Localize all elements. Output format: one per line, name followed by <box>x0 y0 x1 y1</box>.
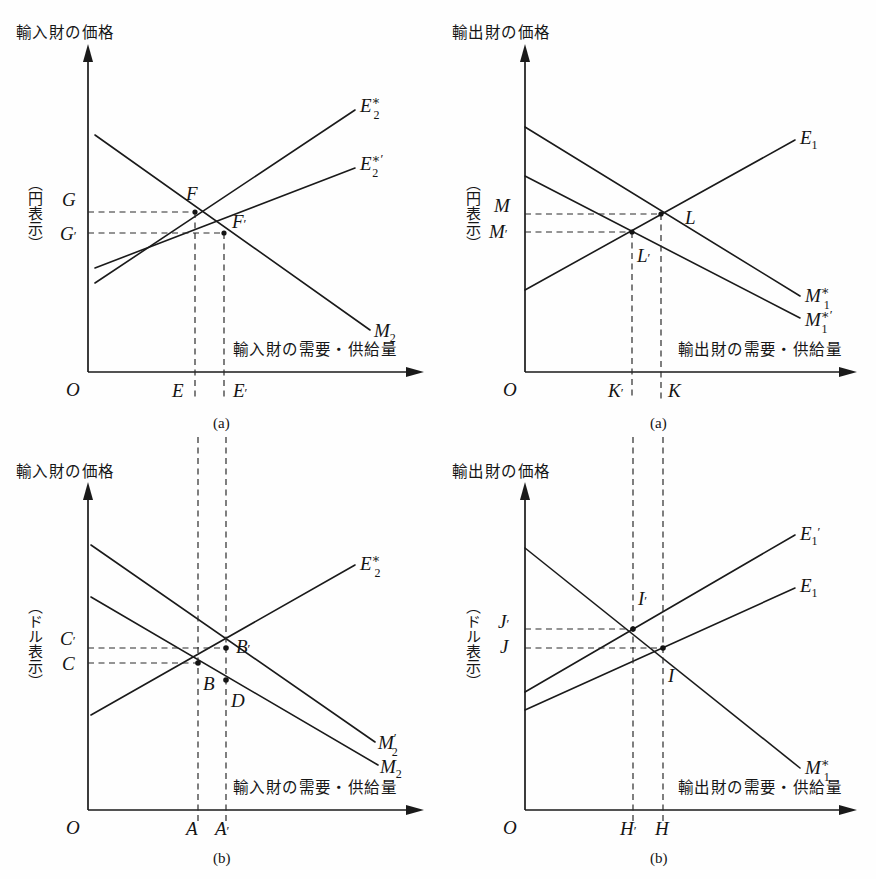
point-label-L-prime: L′ <box>636 245 651 266</box>
panel-import-yen: 輸入財の価格 輸入財の需要・供給量 O G G′ E E′ F <box>0 0 438 440</box>
curve-E1-prime <box>525 535 795 692</box>
y-axis-title: 輸入財の価格 <box>16 463 114 481</box>
y-tick-J: J <box>500 636 510 657</box>
point-B <box>195 660 201 666</box>
panel-caption: (b) <box>650 850 668 867</box>
curve-label-E2-star: E∗2 <box>359 551 380 580</box>
y-axis-unit: （ドル表示） <box>464 599 479 689</box>
origin-label: O <box>66 379 80 400</box>
curve-label-M2: M2 <box>379 756 402 781</box>
curve-E1 <box>525 588 795 710</box>
y-tick-C-prime: C′ <box>60 628 76 649</box>
panel-caption: (a) <box>213 415 230 432</box>
x-tick-A: A <box>184 818 198 839</box>
curve-M2-prime <box>91 545 375 742</box>
y-axis-unit: （円表示） <box>464 176 479 251</box>
x-tick-E-prime: E′ <box>232 380 248 401</box>
x-tick-E: E <box>171 380 184 401</box>
x-axis-title: 輸入財の需要・供給量 <box>233 341 397 359</box>
panel-export-dollar: 輸出財の価格 輸出財の需要・供給量 O J′ J H′ H I′ I E <box>438 437 876 877</box>
panel-export-yen: 輸出財の価格 輸出財の需要・供給量 O M M′ K′ K L L′ E <box>438 0 876 440</box>
point-F <box>192 209 197 214</box>
curve-label-E1: E1 <box>799 575 818 600</box>
y-axis-title: 輸出財の価格 <box>452 463 550 481</box>
point-label-L: L <box>684 207 696 228</box>
y-axis-title: 輸入財の価格 <box>16 24 114 42</box>
curve-label-M2-prime: M′2 <box>377 730 398 759</box>
origin-label: O <box>66 817 80 838</box>
curve-label-E2-star-prime: E∗′2 <box>359 151 383 180</box>
y-tick-G: G <box>62 189 76 210</box>
y-axis-unit: （円表示） <box>26 176 41 251</box>
point-L-prime <box>629 229 634 234</box>
x-tick-H: H <box>654 818 670 839</box>
y-tick-M: M <box>493 195 511 216</box>
point-I <box>660 645 666 651</box>
point-label-B: B <box>203 673 215 694</box>
guide-lines <box>525 437 663 822</box>
curve-M2 <box>95 135 370 330</box>
point-label-D: D <box>230 690 245 711</box>
x-axis-title: 輸出財の需要・供給量 <box>678 341 842 359</box>
point-D <box>223 677 229 683</box>
point-label-F: F <box>185 183 198 204</box>
y-tick-M-prime: M′ <box>488 221 508 242</box>
curve-E2-star <box>91 565 355 715</box>
curve-E2-star <box>95 110 355 283</box>
origin-label: O <box>503 817 517 838</box>
panel-caption: (b) <box>213 850 231 867</box>
point-F-prime <box>221 230 226 235</box>
panel-import-dollar: 輸入財の価格 輸入財の需要・供給量 O C′ C A A′ B B′ D <box>0 437 438 877</box>
panel-caption: (a) <box>650 415 667 432</box>
point-B-prime <box>223 645 229 651</box>
curve-M1-star <box>525 127 800 296</box>
point-label-I-prime: I′ <box>637 588 647 609</box>
origin-label: O <box>503 379 517 400</box>
curve-M1-star-prime <box>525 176 800 318</box>
x-axis-title: 輸出財の需要・供給量 <box>678 779 842 797</box>
curve-label-E1-prime: E1′ <box>799 523 821 548</box>
guide-lines <box>88 437 226 822</box>
curve-E2-star-prime <box>95 168 355 268</box>
x-tick-A-prime: A′ <box>213 818 230 839</box>
y-axis-unit: （ドル表示） <box>26 599 41 689</box>
x-tick-K-prime: K′ <box>607 380 624 401</box>
point-label-B-prime: B′ <box>236 636 251 657</box>
curve-M2 <box>91 597 378 765</box>
y-tick-J-prime: J′ <box>498 611 509 632</box>
x-tick-H-prime: H′ <box>619 818 637 839</box>
point-label-F-prime: F′ <box>231 211 247 232</box>
point-I-prime <box>630 626 636 632</box>
figure-sheet: 輸入財の価格 輸入財の需要・供給量 O G G′ E E′ F <box>0 0 876 879</box>
y-tick-C: C <box>62 653 75 674</box>
point-L <box>658 211 663 216</box>
curve-label-M1-star-prime: M∗′1 <box>804 307 833 336</box>
x-axis-title: 輸入財の需要・供給量 <box>233 779 397 797</box>
y-tick-G-prime: G′ <box>60 223 77 244</box>
curve-label-E1: E1 <box>799 127 818 152</box>
y-axis-title: 輸出財の価格 <box>452 24 550 42</box>
curve-label-E2-star: E∗2 <box>359 93 380 122</box>
x-tick-K: K <box>667 380 682 401</box>
